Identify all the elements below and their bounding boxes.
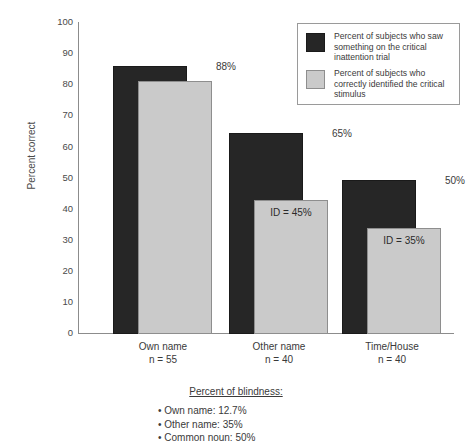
legend-swatch-dark-icon (306, 33, 325, 52)
category-name-time-house: Time/House (365, 341, 419, 352)
bar-label-other-name-saw-something: 65% (332, 129, 352, 139)
category-name-own-name: Own name (139, 341, 187, 352)
legend-swatch-light-icon (306, 70, 325, 89)
y-axis-title: Percent correct (26, 101, 37, 211)
bar-label-time-house-identified: ID = 35% (367, 236, 441, 246)
category-label-time-house: Time/House n = 40 (332, 340, 452, 366)
bar-own-name-identified (138, 81, 212, 334)
category-label-other-name: Other name n = 40 (219, 340, 339, 366)
footnote-item-own-name: Own name: 12.7% (158, 404, 338, 418)
footnote-title: Percent of blindness: (189, 386, 282, 397)
footnote-item-common-noun: Common noun: 50% (158, 431, 338, 445)
bar-other-name-identified (254, 200, 328, 334)
footnote-item-other-name: Other name: 35% (158, 418, 338, 432)
legend: Percent of subjects who saw something on… (297, 23, 460, 105)
category-n-other-name: n = 40 (219, 353, 339, 366)
category-name-other-name: Other name (253, 341, 306, 352)
bar-label-time-house-saw-something: 50% (445, 176, 465, 186)
legend-label-saw-something: Percent of subjects who saw something on… (334, 31, 452, 63)
footnote-list: Own name: 12.7% Other name: 35% Common n… (134, 404, 338, 445)
y-axis-line (78, 22, 79, 333)
bar-label-other-name-identified: ID = 45% (254, 208, 328, 218)
category-label-own-name: Own name n = 55 (103, 340, 223, 366)
legend-label-identified: Percent of subjects who correctly identi… (334, 68, 452, 100)
bar-label-own-name-saw-something: 88% (216, 62, 236, 72)
legend-entry-saw-something: Percent of subjects who saw something on… (306, 31, 452, 63)
bar-chart: Percent correct 100 90 80 70 60 50 40 30… (0, 0, 472, 445)
category-n-own-name: n = 55 (103, 353, 223, 366)
legend-entry-identified: Percent of subjects who correctly identi… (306, 68, 452, 100)
category-n-time-house: n = 40 (332, 353, 452, 366)
footnote-block: Percent of blindness: Own name: 12.7% Ot… (0, 381, 472, 445)
